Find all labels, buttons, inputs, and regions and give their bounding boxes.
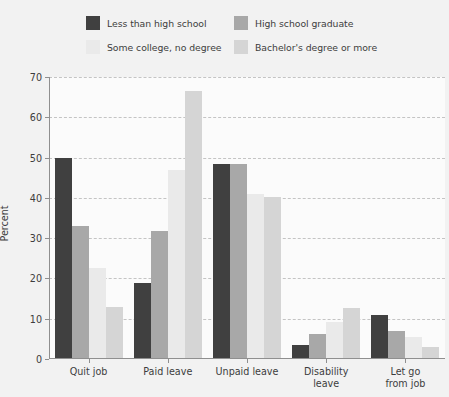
bar	[134, 283, 151, 359]
y-tick-label: 30	[11, 233, 42, 244]
x-tick-label: Paid leave	[143, 366, 192, 378]
legend-item[interactable]: High school graduate	[234, 16, 416, 30]
y-tick-mark	[45, 238, 49, 239]
bar	[72, 226, 89, 359]
bar	[151, 231, 168, 359]
bar	[388, 331, 405, 359]
bar	[264, 197, 281, 359]
y-axis-line	[49, 77, 50, 359]
y-tick-label: 60	[11, 112, 42, 123]
bar	[371, 315, 388, 359]
bar-group	[134, 77, 202, 359]
legend-item[interactable]: Less than high school	[86, 16, 234, 30]
y-tick-label: 40	[11, 192, 42, 203]
bar	[106, 307, 123, 359]
legend-swatch-icon	[234, 40, 248, 54]
bar	[230, 164, 247, 359]
bar	[326, 322, 343, 359]
y-tick-mark	[45, 77, 49, 78]
y-tick-mark	[45, 359, 49, 360]
chart-legend: Less than high schoolHigh school graduat…	[86, 11, 416, 59]
y-tick-mark	[45, 278, 49, 279]
x-tick-mark	[405, 359, 406, 363]
bar	[168, 170, 185, 359]
y-tick-mark	[45, 198, 49, 199]
x-tick-mark	[247, 359, 248, 363]
x-tick-mark	[168, 359, 169, 363]
y-tick-label: 20	[11, 273, 42, 284]
x-tick-mark	[326, 359, 327, 363]
bar-group	[371, 77, 439, 359]
x-tick-label: Let go from job	[385, 366, 425, 390]
bar	[405, 337, 422, 359]
bar	[89, 268, 106, 359]
x-tick-mark	[89, 359, 90, 363]
plot-area	[49, 77, 445, 359]
y-tick-mark	[45, 319, 49, 320]
y-axis-label: Percent	[0, 205, 10, 241]
bar-group	[213, 77, 281, 359]
y-tick-label: 70	[11, 72, 42, 83]
y-tick-label: 50	[11, 152, 42, 163]
legend-label: High school graduate	[255, 18, 353, 29]
legend-label: Less than high school	[107, 18, 206, 29]
legend-label: Some college, no degree	[107, 42, 222, 53]
y-tick-mark	[45, 158, 49, 159]
legend-label: Bachelor's degree or more	[255, 42, 377, 53]
legend-swatch-icon	[86, 16, 100, 30]
bar	[55, 158, 72, 359]
y-tick-label: 0	[11, 354, 42, 365]
x-tick-label: Disability leave	[304, 366, 348, 390]
bar	[247, 194, 264, 359]
legend-item[interactable]: Bachelor's degree or more	[234, 40, 416, 54]
y-tick-label: 10	[11, 313, 42, 324]
bar	[292, 345, 309, 360]
legend-swatch-icon	[234, 16, 248, 30]
legend-item[interactable]: Some college, no degree	[86, 40, 234, 54]
x-tick-label: Unpaid leave	[216, 366, 279, 378]
bar-group	[292, 77, 360, 359]
bar	[309, 334, 326, 359]
y-tick-mark	[45, 117, 49, 118]
legend-swatch-icon	[86, 40, 100, 54]
bar	[343, 308, 360, 359]
x-tick-label: Quit job	[70, 366, 108, 378]
bar-group	[55, 77, 123, 359]
bar	[213, 164, 230, 359]
bar	[185, 91, 202, 359]
